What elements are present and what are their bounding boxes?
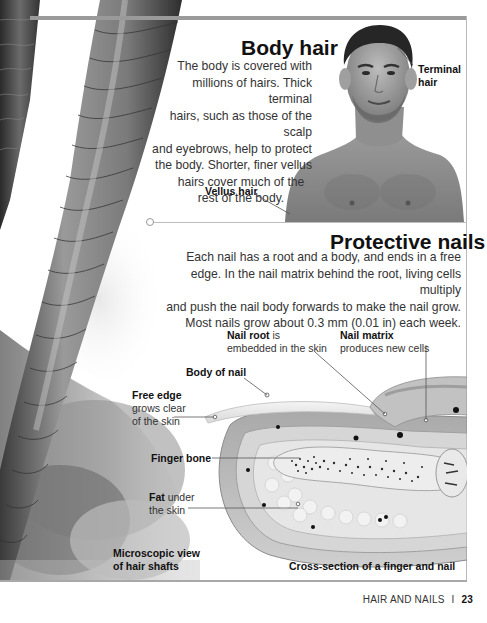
terminal-hair-label: Terminal hair [418,63,461,89]
label-bold: Finger bone [151,452,211,464]
page-footer: HAIR AND NAILS I 23 [363,594,473,605]
body-of-nail-label: Body of nail [186,366,246,379]
microscopic-view-caption: Microscopic view of hair shafts [113,547,200,573]
finger-cross-section-illustration [200,355,467,580]
paragraph-line: The body is covered with [150,58,312,75]
footer-separator: I [452,594,455,605]
paragraph-line: and eyebrows, help to protect [150,141,312,158]
section-title: HAIR AND NAILS [363,594,445,605]
paragraph-line: hairs, such as those of the scalp [150,108,312,141]
label-bold: Free edge [132,389,182,401]
paragraph-line: the body. Shorter, finer vellus [150,157,312,174]
cross-section-caption: Cross-section of a finger and nail [289,560,455,573]
caption-line: Microscopic view [113,547,200,560]
label-text: produces new cells [340,342,429,355]
vellus-hair-label: Vellus hair [205,185,258,198]
divider-dot-marker [146,218,154,226]
label-line: Terminal [418,63,461,76]
paragraph-line: millions of hairs. Thick terminal [150,75,312,108]
fat-under-skin-label: Fat under the skin [149,491,195,517]
book-page: Body hair The body is covered with milli… [0,0,487,623]
section-divider [150,222,467,223]
caption-line: of hair shafts [113,560,200,573]
label-text: is [270,329,281,341]
label-text: embedded in the skin [227,342,327,355]
protective-nails-paragraph: Each nail has a root and a body, and end… [150,249,461,332]
label-bold: Fat [149,491,165,503]
page-frame-bottom-border [0,580,467,582]
paragraph-line: and push the nail body forwards to make … [150,299,461,316]
paragraph-line: Each nail has a root and a body, and end… [150,249,461,266]
paragraph-line: edge. In the nail matrix behind the root… [150,266,461,299]
nail-root-label: Nail root is embedded in the skin [227,329,327,355]
label-line: hair [418,76,461,89]
label-text: of the skin [132,415,186,428]
finger-bone-label: Finger bone [151,452,211,465]
label-text: grows clear [132,402,186,415]
nail-matrix-label: Nail matrix produces new cells [340,329,429,355]
page-number: 23 [461,594,473,605]
free-edge-label: Free edge grows clear of the skin [132,389,186,428]
label-text: under [165,491,195,503]
label-text: the skin [149,504,195,517]
label-bold: Nail root [227,329,270,341]
body-hair-heading: Body hair [241,36,338,60]
label-bold: Nail matrix [340,329,394,341]
label-bold: Body of nail [186,366,246,378]
